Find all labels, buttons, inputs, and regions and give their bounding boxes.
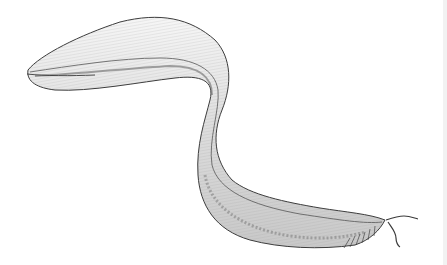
worm-drawing (0, 0, 447, 265)
illustration (0, 0, 447, 265)
tail-cirrus-lower (388, 222, 400, 247)
tail-cirrus-upper (386, 216, 418, 220)
segment-hatching (28, 17, 385, 247)
page-edge (443, 0, 447, 265)
